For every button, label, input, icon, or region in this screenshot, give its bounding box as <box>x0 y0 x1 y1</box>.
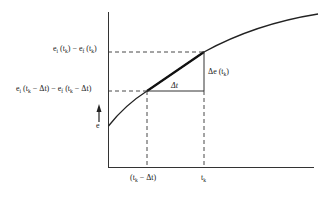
delta-t-label: Δt <box>171 82 178 90</box>
diagram-canvas <box>0 0 333 202</box>
label-part: (t <box>21 84 28 93</box>
x-tick-tk: tk <box>201 174 206 184</box>
label-part: − Δt) − e <box>31 84 62 93</box>
delta-e-label: Δe (tk) <box>208 68 229 78</box>
label-part: Δe (t <box>208 67 224 76</box>
label-part: ) <box>226 67 229 76</box>
label-part: ) <box>94 44 97 53</box>
upper-y-label: ei (tk) − ef (tk) <box>53 45 97 55</box>
label-part: − Δt) <box>73 84 92 93</box>
lower-y-label: ei (tk − Δt) − ef (tk − Δt) <box>16 85 91 95</box>
label-sub: k <box>203 177 206 183</box>
label-part: (t <box>58 44 65 53</box>
y-axis-label: e <box>96 122 100 130</box>
label-part: − Δt) <box>138 173 157 182</box>
arrow-up-icon <box>97 104 102 112</box>
x-tick-tk-minus-dt: (tk − Δt) <box>130 174 156 184</box>
label-part: ) − e <box>68 44 83 53</box>
